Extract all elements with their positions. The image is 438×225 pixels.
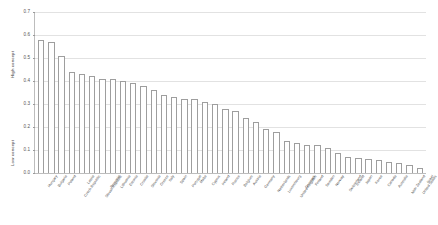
y-axis-tick-label: 0.2 <box>24 125 30 130</box>
bar[interactable] <box>79 74 85 173</box>
x-axis-category-label: Korea <box>376 175 385 185</box>
bar-slot <box>97 12 107 173</box>
bar-slot <box>364 12 374 173</box>
bar-slot <box>323 12 333 173</box>
x-axis-category-label: Ireland <box>222 175 232 186</box>
bar[interactable] <box>406 165 412 173</box>
bar[interactable] <box>191 99 197 173</box>
bar[interactable] <box>99 79 105 173</box>
bar-slot <box>241 12 251 173</box>
x-axis-category-labels: HungaryBulgariaPolandCzech RepublicLatvi… <box>34 175 425 225</box>
bar-slot <box>149 12 159 173</box>
bar[interactable] <box>151 90 157 173</box>
bar-slot <box>415 12 425 173</box>
y-axis-tick-label: 0.4 <box>24 79 30 84</box>
bar-slot <box>230 12 240 173</box>
bar-slot <box>108 12 118 173</box>
bar-slot <box>282 12 292 173</box>
y-axis-tick-label: 0.6 <box>24 33 30 38</box>
bar[interactable] <box>89 76 95 173</box>
bar-slot <box>77 12 87 173</box>
bar-slot <box>179 12 189 173</box>
bar-slot <box>67 12 77 173</box>
bar[interactable] <box>161 95 167 173</box>
bar[interactable] <box>202 102 208 173</box>
bar-slot <box>292 12 302 173</box>
bar[interactable] <box>365 159 371 173</box>
bar[interactable] <box>314 145 320 173</box>
y-axis-tick-label: 0.7 <box>24 10 30 15</box>
bar-slot <box>404 12 414 173</box>
bar[interactable] <box>386 162 392 174</box>
x-axis-category-label: Italy <box>168 175 175 183</box>
bar-slot <box>128 12 138 173</box>
x-axis-category-label: Germany <box>265 175 277 190</box>
bar[interactable] <box>38 40 44 173</box>
bar-slot <box>312 12 322 173</box>
bar-slot <box>159 12 169 173</box>
bar-slot <box>343 12 353 173</box>
bar[interactable] <box>212 104 218 173</box>
bar[interactable] <box>130 83 136 173</box>
bar[interactable] <box>417 168 423 173</box>
bar-slot <box>56 12 66 173</box>
bar-slot <box>200 12 210 173</box>
x-axis-category-label: Sweden <box>326 175 337 188</box>
bar[interactable] <box>376 160 382 173</box>
bar[interactable] <box>273 132 279 173</box>
bar-slot <box>333 12 343 173</box>
bar-slot <box>138 12 148 173</box>
bar-slot <box>118 12 128 173</box>
bar-slot <box>210 12 220 173</box>
bar-slot <box>46 12 56 173</box>
bar-slot <box>353 12 363 173</box>
y-axis-tick-label: 0.3 <box>24 102 30 107</box>
plot-area <box>34 12 426 174</box>
bar-slot <box>394 12 404 173</box>
bar[interactable] <box>304 145 310 173</box>
bar-slot <box>302 12 312 173</box>
bar-slot <box>251 12 261 173</box>
y-axis-tick-label: 0.1 <box>24 148 30 153</box>
bar[interactable] <box>396 163 402 173</box>
bar[interactable] <box>243 118 249 173</box>
y-axis-tick-label: 0.5 <box>24 56 30 61</box>
x-axis-category-label: Cyprus <box>212 175 222 187</box>
y-axis-tick-labels: 0.00.10.20.30.40.50.60.7 <box>0 0 34 225</box>
x-axis-category-label: Japan <box>365 175 374 185</box>
bar[interactable] <box>140 86 146 173</box>
bar-slot <box>220 12 230 173</box>
bar[interactable] <box>110 79 116 173</box>
bar[interactable] <box>345 157 351 173</box>
bar[interactable] <box>171 97 177 173</box>
bar[interactable] <box>69 72 75 173</box>
bar-slot <box>271 12 281 173</box>
bar[interactable] <box>284 141 290 173</box>
bar[interactable] <box>58 56 64 173</box>
bar-slot <box>374 12 384 173</box>
x-axis-category-label: Norway <box>336 175 346 187</box>
bar[interactable] <box>325 148 331 173</box>
bar[interactable] <box>355 158 361 173</box>
x-axis-category-label: Malta <box>200 175 208 185</box>
bar[interactable] <box>263 129 269 173</box>
bar[interactable] <box>294 143 300 173</box>
bar[interactable] <box>181 99 187 173</box>
bar[interactable] <box>335 153 341 173</box>
bar-slot <box>190 12 200 173</box>
bar-slot <box>261 12 271 173</box>
bar-slot <box>87 12 97 173</box>
x-axis-category-label: France <box>232 175 242 187</box>
bar-slot <box>169 12 179 173</box>
bar[interactable] <box>253 122 259 173</box>
y-axis-tick-label: 0.0 <box>24 171 30 176</box>
bar[interactable] <box>120 81 126 173</box>
x-axis-category-label: Poland <box>68 175 78 187</box>
bar[interactable] <box>48 42 54 173</box>
bar-slot <box>36 12 46 173</box>
x-axis-category-label: Croatia <box>140 175 150 187</box>
x-axis-category-label: Spain <box>180 175 188 185</box>
bar[interactable] <box>232 111 238 173</box>
bars-container <box>35 12 426 173</box>
bar[interactable] <box>222 109 228 173</box>
